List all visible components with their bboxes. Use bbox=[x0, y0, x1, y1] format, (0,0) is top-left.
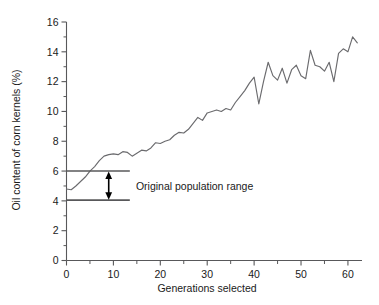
y-tick-label-12: 12 bbox=[47, 75, 59, 87]
chart-container: 0246810121416 0102030405060 Original pop… bbox=[0, 0, 379, 305]
x-tick-label-60: 60 bbox=[342, 268, 354, 280]
x-tick-label-50: 50 bbox=[295, 268, 307, 280]
x-tick-label-30: 30 bbox=[201, 268, 213, 280]
annotation-group: Original population range bbox=[67, 171, 254, 200]
range-arrow-head-down bbox=[105, 192, 112, 200]
x-axis: 0102030405060 bbox=[64, 261, 362, 280]
y-tick-label-14: 14 bbox=[47, 46, 59, 58]
x-tick-label-10: 10 bbox=[108, 268, 120, 280]
y-tick-label-16: 16 bbox=[47, 16, 59, 28]
range-arrow-head-up bbox=[105, 172, 112, 180]
range-annotation-label: Original population range bbox=[136, 180, 253, 192]
y-axis: 0246810121416 bbox=[47, 16, 67, 267]
x-tick-label-20: 20 bbox=[154, 268, 166, 280]
data-series-group bbox=[67, 37, 358, 190]
y-tick-label-8: 8 bbox=[53, 135, 59, 147]
x-tick-label-40: 40 bbox=[248, 268, 260, 280]
x-axis-label: Generations selected bbox=[157, 282, 256, 294]
x-tick-label-0: 0 bbox=[64, 268, 70, 280]
series-line-0 bbox=[67, 37, 358, 190]
y-tick-label-6: 6 bbox=[53, 165, 59, 177]
y-tick-label-10: 10 bbox=[47, 105, 59, 117]
oil-content-line-chart: 0246810121416 0102030405060 Original pop… bbox=[0, 0, 379, 305]
y-tick-label-2: 2 bbox=[53, 224, 59, 236]
y-tick-label-4: 4 bbox=[53, 195, 59, 207]
y-axis-label: Oil content of corn kernels (%) bbox=[10, 69, 22, 210]
y-tick-label-0: 0 bbox=[53, 254, 59, 266]
